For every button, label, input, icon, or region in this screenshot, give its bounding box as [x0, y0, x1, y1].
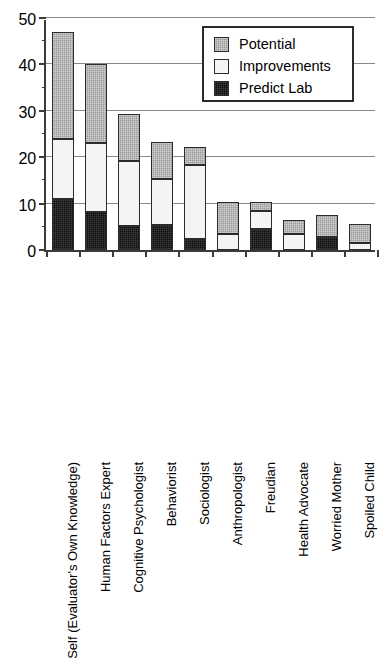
x-tick-label: Self (Evaluator's Own Knowledge): [66, 462, 79, 659]
y-tick-major: [39, 156, 46, 158]
y-tick-label: 0: [0, 244, 36, 260]
legend-label-potential: Potential: [239, 37, 295, 52]
y-tick-label: 30: [0, 105, 36, 121]
bar-group[interactable]: [79, 20, 112, 250]
bar-segment-predict-lab[interactable]: [118, 226, 140, 250]
x-tick: [212, 250, 214, 257]
x-tick-label: Cognitive Psychologist: [132, 462, 145, 593]
bar-segment-improvements[interactable]: [151, 179, 173, 225]
x-tick: [145, 250, 147, 257]
x-tick-label: Health Advocate: [297, 462, 310, 557]
bar-segment-improvements[interactable]: [184, 165, 206, 239]
x-tick: [245, 250, 247, 257]
bar-segment-predict-lab[interactable]: [151, 225, 173, 250]
bar-segment-improvements[interactable]: [283, 234, 305, 250]
bar-segment-potential[interactable]: [118, 114, 140, 161]
legend-item-improvements: Improvements: [214, 57, 331, 75]
legend-item-predict-lab: Predict Lab: [214, 79, 312, 97]
x-tick: [344, 250, 346, 257]
legend-item-potential: Potential: [214, 35, 295, 53]
y-tick-label: 20: [0, 151, 36, 167]
legend-label-improvements: Improvements: [239, 59, 331, 74]
y-tick-major: [39, 203, 46, 205]
y-tick-label: 10: [0, 198, 36, 214]
bar-segment-improvements[interactable]: [118, 161, 140, 226]
y-tick-major: [39, 17, 46, 19]
bar-segment-potential[interactable]: [85, 64, 107, 143]
predict-lab-swatch: [214, 81, 229, 96]
x-tick-label: Behaviorist: [165, 462, 178, 526]
bar-segment-improvements[interactable]: [85, 143, 107, 212]
y-tick-label: 50: [0, 12, 36, 28]
y-tick-major: [39, 63, 46, 65]
x-tick-label: Anthropologist: [231, 462, 244, 545]
bar-segment-potential[interactable]: [52, 32, 74, 139]
bar-segment-predict-lab[interactable]: [316, 237, 338, 250]
bar-segment-improvements[interactable]: [250, 211, 272, 230]
bar-segment-improvements[interactable]: [349, 243, 371, 250]
potential-swatch: [214, 37, 229, 52]
y-tick-major: [39, 249, 46, 251]
x-tick-label: Sociologist: [198, 462, 211, 525]
x-tick: [311, 250, 313, 257]
improvements-swatch: [214, 59, 229, 74]
bar-segment-potential[interactable]: [349, 224, 371, 243]
bar-segment-potential[interactable]: [151, 142, 173, 179]
x-tick: [46, 250, 48, 257]
x-tick: [79, 250, 81, 257]
x-tick-label: Human Factors Expert: [99, 462, 112, 592]
bar-segment-predict-lab[interactable]: [85, 212, 107, 250]
bar-segment-potential[interactable]: [217, 202, 239, 234]
x-tick-label: Freudian: [264, 462, 277, 513]
x-tick: [278, 250, 280, 257]
bar-group[interactable]: [46, 20, 79, 250]
y-tick-label: 40: [0, 58, 36, 74]
x-tick: [112, 250, 114, 257]
chart-legend: Potential Improvements Predict Lab: [202, 26, 354, 102]
bar-segment-potential[interactable]: [184, 147, 206, 166]
bar-segment-predict-lab[interactable]: [52, 199, 74, 250]
bar-segment-potential[interactable]: [250, 202, 272, 211]
y-tick-major: [39, 110, 46, 112]
bar-segment-predict-lab[interactable]: [250, 229, 272, 250]
x-tick: [178, 250, 180, 257]
bar-segment-predict-lab[interactable]: [184, 239, 206, 250]
x-tick-label: Worried Mother: [330, 462, 343, 551]
x-tick-label: Spoiled Child: [363, 462, 376, 539]
bar-segment-potential[interactable]: [283, 220, 305, 234]
legend-label-predict-lab: Predict Lab: [239, 81, 312, 96]
gridline: [46, 17, 375, 18]
bar-group[interactable]: [145, 20, 178, 250]
bar-group[interactable]: [112, 20, 145, 250]
x-tick: [377, 250, 379, 257]
bar-segment-improvements[interactable]: [52, 139, 74, 199]
bar-segment-potential[interactable]: [316, 215, 338, 237]
bar-segment-improvements[interactable]: [217, 234, 239, 250]
x-axis-labels: Self (Evaluator's Own Knowledge)Human Fa…: [0, 262, 383, 466]
